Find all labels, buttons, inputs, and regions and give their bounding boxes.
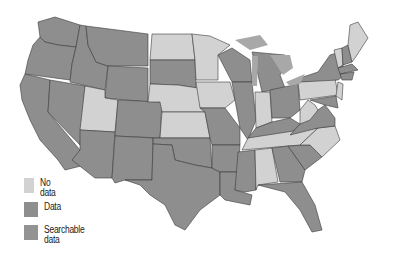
state-nd[interactable] — [150, 34, 195, 60]
state-me[interactable] — [348, 22, 368, 62]
us-map — [0, 0, 395, 261]
state-sd[interactable] — [150, 60, 196, 88]
state-ar[interactable] — [212, 145, 240, 172]
state-ia[interactable] — [196, 82, 235, 108]
swatch-searchable-data — [24, 225, 38, 240]
state-fl[interactable] — [258, 182, 322, 232]
swatch-no-data — [24, 178, 34, 193]
state-oh[interactable] — [270, 84, 300, 118]
state-ks[interactable] — [160, 112, 210, 138]
states — [20, 17, 368, 232]
state-in[interactable] — [255, 92, 272, 128]
state-wy[interactable] — [105, 66, 148, 102]
lake-michigan — [252, 56, 258, 86]
legend-item-data: Data — [24, 202, 64, 217]
state-ms[interactable] — [235, 150, 256, 192]
legend-item-no-data: No data — [24, 178, 62, 198]
state-nj[interactable] — [336, 82, 343, 100]
state-wi[interactable] — [218, 48, 252, 82]
state-mt[interactable] — [86, 26, 148, 66]
legend-label: Searchabledata — [44, 225, 84, 245]
legend-label: No data — [40, 178, 59, 198]
legend-item-searchable-data: Searchabledata — [24, 225, 92, 245]
swatch-data — [24, 202, 38, 217]
state-nm[interactable] — [112, 136, 153, 183]
legend-label: Data — [44, 202, 61, 212]
state-co[interactable] — [115, 100, 162, 138]
lake-superior — [235, 35, 268, 50]
